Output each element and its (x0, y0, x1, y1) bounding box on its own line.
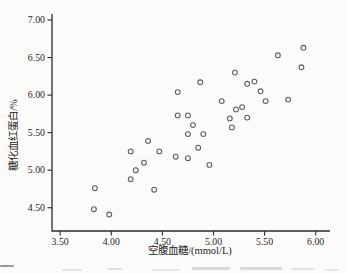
data-point (186, 113, 191, 118)
data-point (175, 113, 180, 118)
x-axis-label: 空腹血糖/(mmol/L) (148, 244, 232, 257)
x-tick-label: 3.50 (52, 236, 69, 247)
data-point (191, 123, 196, 128)
data-point (93, 186, 98, 191)
data-point (107, 212, 112, 217)
data-point (240, 105, 245, 110)
data-point (234, 107, 239, 112)
data-point (201, 132, 206, 137)
y-tick-label: 6.50 (28, 52, 45, 63)
data-point (245, 81, 250, 86)
y-tick-label: 5.50 (28, 127, 45, 138)
data-point (128, 177, 133, 182)
data-point (92, 207, 97, 212)
y-tick-label: 5.00 (28, 164, 45, 175)
data-point (263, 99, 268, 104)
data-point (252, 79, 257, 84)
scatter-figure: 3.504.004.505.005.506.004.505.005.506.00… (0, 0, 347, 273)
x-tick-label: 4.00 (103, 236, 120, 247)
data-point (219, 99, 224, 104)
data-point (299, 65, 304, 70)
data-point (128, 149, 133, 154)
x-tick-label: 6.00 (307, 236, 324, 247)
x-tick-label: 5.50 (256, 236, 273, 247)
data-point (276, 53, 281, 58)
axes-spines (52, 14, 330, 231)
data-point (152, 187, 157, 192)
data-point (133, 168, 138, 173)
data-point (186, 132, 191, 137)
data-point (301, 45, 306, 50)
data-point (146, 139, 151, 144)
data-point (227, 116, 232, 121)
data-point (233, 70, 238, 75)
data-point (198, 80, 203, 85)
plot-area: 3.504.004.505.005.506.004.505.005.506.00… (28, 14, 330, 247)
data-point (142, 160, 147, 165)
data-point (157, 149, 162, 154)
data-point (258, 89, 263, 94)
y-tick-label: 6.00 (28, 89, 45, 100)
data-point (186, 156, 191, 161)
data-point (173, 154, 178, 159)
scatter-chart: 3.504.004.505.005.506.004.505.005.506.00… (0, 0, 347, 273)
y-tick-label: 7.00 (28, 14, 45, 25)
y-axis-label: 糖化血红蛋白/% (7, 99, 19, 171)
data-point (230, 125, 235, 130)
data-point (207, 163, 212, 168)
data-point (196, 145, 201, 150)
data-point (286, 97, 291, 102)
data-point (245, 115, 250, 120)
data-point (175, 90, 180, 95)
y-tick-label: 4.50 (28, 202, 45, 213)
